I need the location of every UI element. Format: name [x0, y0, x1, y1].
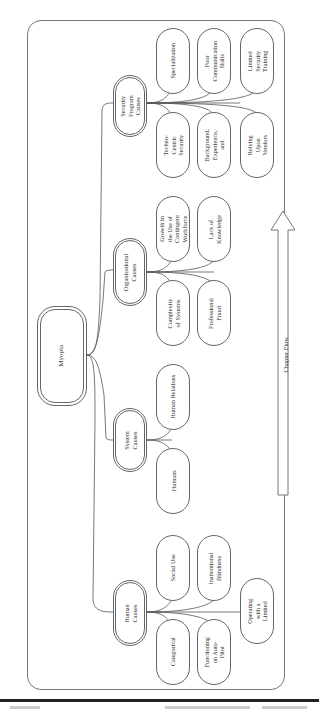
- cause-growth-contingent-workforce: Growth in the Use of Contingent Workforc…: [156, 196, 190, 262]
- category-system-causes: System Causes: [113, 408, 147, 472]
- cause-poor-communication-skills: Poor Communication Skills: [197, 28, 231, 94]
- cause-label: Operating with a Limited: [246, 595, 269, 627]
- cause-label: Professional Fraud: [207, 297, 222, 329]
- cause-human-relations: Human Relations: [156, 364, 190, 430]
- cause-label: Lack of Knowledge: [207, 213, 222, 245]
- page-rule: [0, 699, 319, 702]
- root-node-myopia: Myopia: [37, 306, 87, 406]
- chapter-flow-label-wrap: Chapter Flow: [274, 330, 298, 380]
- cause-label: Social Use: [169, 554, 177, 581]
- category-label: System Causes: [123, 426, 138, 454]
- cause-specialization: Specialization: [156, 28, 190, 94]
- cause-label: Limited Security Training: [246, 45, 269, 77]
- cause-inattentional-blindness: Inattentional Blindness: [197, 535, 231, 601]
- caption-fragment: [262, 706, 307, 709]
- cause-operating-with-a-limited: Operating with a Limited: [240, 578, 274, 644]
- cause-functioning-on-auto-pilot: Functioning on Auto-Pilot: [197, 619, 231, 685]
- cause-label: Background, Experience, and: [203, 129, 226, 161]
- chapter-flow-label: Chapter Flow: [282, 337, 290, 373]
- category-human-causes: Human Causes: [113, 580, 147, 646]
- category-label: Organizational Causes: [123, 253, 138, 290]
- category-organizational-causes: Organizational Causes: [113, 238, 147, 306]
- cause-label: Human Relations: [169, 375, 177, 419]
- cause-complexity-of-systems: Complexity of Systems: [156, 280, 190, 346]
- root-label: Myopia: [58, 345, 66, 367]
- caption-fragment: [10, 706, 40, 709]
- cause-background-experience: Background, Experience, and: [197, 112, 231, 178]
- cause-limited-security-training: Limited Security Training: [240, 28, 274, 94]
- cause-categorical: Categorical: [156, 619, 190, 685]
- cause-label: Poor Communication Skills: [203, 41, 226, 82]
- cause-relying-upon-vendors: Relying Upon Vendors: [240, 112, 274, 178]
- cause-label: Specialization: [169, 43, 177, 79]
- cause-professional-fraud: Professional Fraud: [197, 280, 231, 346]
- cause-lack-of-knowledge: Lack of Knowledge: [197, 196, 231, 262]
- cause-social-use: Social Use: [156, 535, 190, 601]
- category-security-program-causes: Security Program Causes: [113, 75, 147, 137]
- cause-techno-centric-security: Techno-Centric Security: [156, 112, 190, 178]
- cause-label: Functioning on Auto-Pilot: [203, 636, 226, 668]
- cause-label: Inattentional Blindness: [207, 552, 222, 584]
- cause-label: Relying Upon Vendors: [246, 129, 269, 161]
- cause-label: Complexity of Systems: [166, 297, 181, 329]
- cause-label: Humans: [169, 471, 177, 492]
- cause-humans: Humans: [156, 448, 190, 514]
- cause-label: Categorical: [169, 637, 177, 666]
- cause-label: Growth in the Use of Contingent Workforc…: [158, 213, 188, 245]
- caption-fragment: [165, 706, 250, 709]
- category-label: Security Program Causes: [119, 92, 142, 120]
- cause-label: Techno-Centric Security: [162, 129, 185, 161]
- category-label: Human Causes: [123, 599, 138, 627]
